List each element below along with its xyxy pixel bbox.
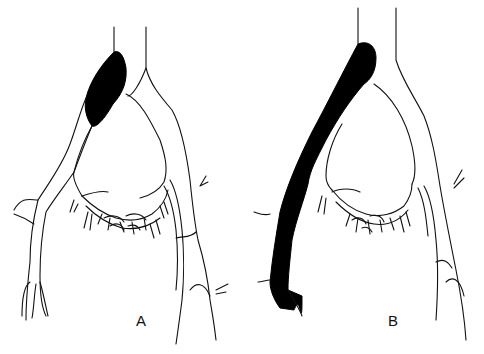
vessel-diagram-b	[240, 0, 484, 354]
panel-a: A	[0, 0, 240, 354]
panel-label-b: B	[388, 312, 398, 329]
vessel-diagram-a	[0, 0, 240, 354]
panel-b: B	[240, 0, 484, 354]
panel-label-a: A	[136, 312, 146, 329]
